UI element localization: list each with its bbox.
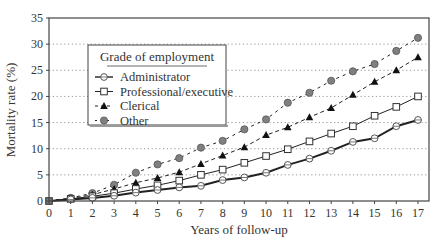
data-point-marker [241,160,248,167]
x-axis-title: Years of follow-up [190,222,288,237]
data-point-marker [219,166,226,173]
data-point-marker [393,104,400,111]
data-point-marker [219,137,226,144]
x-tick-label: 15 [369,206,381,220]
series-administrator [49,117,421,203]
x-tick-label: 16 [390,206,402,220]
data-point-marker [306,113,314,120]
legend-label: Professional/executive [120,85,234,99]
legend-marker-icon [101,88,108,95]
legend-label: Other [120,114,149,128]
data-point-marker [197,144,204,151]
x-tick-label: 14 [347,206,359,220]
data-point-marker [176,177,183,184]
data-point-marker [328,130,335,137]
data-point-marker [414,34,421,41]
chart-canvas: 05101520253035 0123456789101112131415161… [0,0,447,240]
x-tick-label: 8 [220,206,226,220]
legend-title: Grade of employment [100,49,214,64]
y-axis: 05101520253035 [31,11,49,208]
legend-marker-icon [100,117,107,124]
data-point-marker [328,77,335,84]
x-tick-label: 12 [303,206,315,220]
data-point-marker [393,47,400,54]
data-point-marker [306,89,313,96]
y-tick-label: 30 [31,37,43,51]
mortality-line-chart: 05101520253035 0123456789101112131415161… [0,0,447,240]
data-point-marker [284,123,292,130]
y-tick-label: 5 [37,168,43,182]
data-point-marker [197,160,205,167]
data-point-marker [176,155,183,162]
legend-label: Clerical [120,99,160,113]
data-point-marker [349,68,356,75]
y-tick-label: 35 [31,11,43,25]
data-point-marker [327,104,335,111]
data-point-marker [154,161,161,168]
y-tick-label: 10 [31,142,43,156]
x-tick-label: 2 [89,206,95,220]
x-tick-label: 10 [260,206,272,220]
x-tick-label: 4 [133,206,139,220]
y-tick-label: 20 [31,89,43,103]
x-tick-label: 9 [241,206,247,220]
data-point-marker [415,93,422,100]
x-tick-label: 1 [68,206,74,220]
y-tick-label: 25 [31,63,43,77]
x-tick-label: 17 [412,206,424,220]
data-point-marker [371,112,378,119]
data-point-marker [371,60,378,67]
legend-shadow [90,125,228,127]
x-tick-label: 3 [111,206,117,220]
data-point-marker [306,138,313,145]
x-tick-label: 5 [155,206,161,220]
data-point-marker [132,169,139,176]
data-point-marker [263,153,270,160]
x-tick-label: 11 [282,206,294,220]
data-point-marker [371,78,379,85]
data-point-marker [284,99,291,106]
data-point-marker [241,143,249,150]
data-point-marker [262,116,269,123]
data-point-marker [262,131,270,138]
data-point-marker [392,66,400,73]
data-point-marker [241,126,248,133]
y-axis-title: Mortality rate (%) [3,63,18,158]
data-point-marker [284,146,291,153]
data-point-marker [198,172,205,179]
x-tick-label: 0 [46,206,52,220]
y-tick-label: 0 [37,194,43,208]
data-point-marker [175,168,183,175]
x-tick-label: 6 [176,206,182,220]
x-axis: 01234567891011121314151617 [46,201,424,220]
y-tick-label: 15 [31,116,43,130]
x-tick-label: 13 [325,206,337,220]
data-point-marker [350,123,357,130]
x-tick-label: 7 [198,206,204,220]
data-point-marker [349,91,357,98]
legend: Grade of employment AdministratorProfess… [88,45,234,128]
legend-label: Administrator [120,70,191,84]
data-point-marker [219,152,227,159]
data-point-marker [414,53,422,60]
